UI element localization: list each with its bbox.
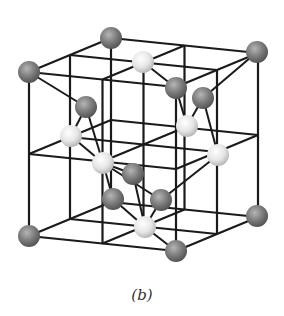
light-atom: [60, 125, 82, 147]
figure-caption: (b): [0, 286, 284, 304]
light-atom: [92, 152, 114, 174]
dark-atom: [102, 188, 124, 210]
dark-atom: [18, 61, 40, 83]
dark-atom: [165, 77, 187, 99]
dark-atom: [18, 225, 40, 247]
dark-atom: [165, 240, 187, 262]
dark-atom: [192, 87, 214, 109]
dark-atom: [100, 27, 122, 49]
dark-atom: [75, 96, 97, 118]
light-atom: [207, 144, 229, 166]
light-atom: [176, 115, 198, 137]
dark-atom: [246, 41, 268, 63]
dark-atom: [246, 205, 268, 227]
dark-atom: [122, 163, 144, 185]
crystal-lattice-diagram: [0, 0, 284, 316]
light-atom: [134, 216, 156, 238]
dark-atom: [150, 189, 172, 211]
light-atom: [132, 51, 154, 73]
